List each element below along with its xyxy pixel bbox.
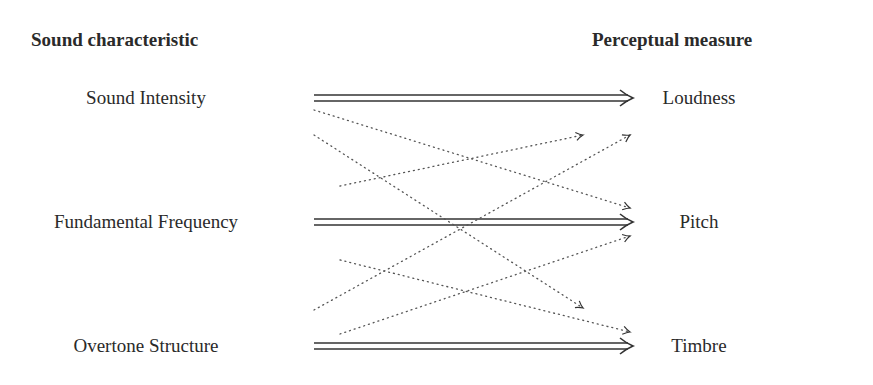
sound-perception-diagram: Sound characteristic Perceptual measure … — [0, 0, 873, 385]
double-arrow-frequency-pitch — [314, 214, 633, 230]
dotted-arrow-intensity-pitch — [314, 110, 630, 208]
dotted-arrow-overtone-loudness — [314, 135, 630, 310]
dotted-arrow-frequency-loudness — [340, 135, 583, 186]
dotted-arrow-overtone-pitch — [340, 236, 630, 334]
double-arrow-overtone-timbre — [314, 338, 633, 354]
double-arrow-intensity-loudness — [314, 90, 633, 106]
arrows-layer — [0, 0, 873, 385]
dotted-arrow-intensity-timbre — [314, 135, 583, 308]
dotted-arrow-frequency-timbre — [340, 260, 630, 332]
